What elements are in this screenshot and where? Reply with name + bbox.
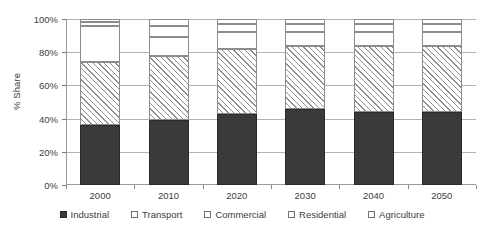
bar-segment-residential[interactable] [285,24,325,32]
legend-swatch-icon [204,211,211,218]
bar-segment-commercial[interactable] [285,32,325,45]
bar-segment-residential[interactable] [80,22,120,25]
bar-segment-transport[interactable] [80,62,120,125]
stacked-bar[interactable] [354,19,394,185]
y-tick-label: 40% [14,113,58,124]
stacked-bar[interactable] [422,19,462,185]
x-tick-mark [271,185,272,189]
bar-segment-commercial[interactable] [354,32,394,45]
x-tick-mark [66,185,67,189]
bar-segment-transport[interactable] [422,46,462,112]
x-tick-label-2050: 2050 [431,190,452,201]
chart-legend: IndustrialTransportCommercialResidential… [0,209,484,220]
legend-swatch-icon [288,211,295,218]
x-tick-label-2010: 2010 [158,190,179,201]
bar-segment-transport[interactable] [217,49,257,114]
legend-item-industrial[interactable]: Industrial [60,209,110,220]
bar-group[interactable] [285,19,325,185]
bar-group[interactable] [422,19,462,185]
bar-group[interactable] [80,19,120,185]
bar-segment-residential[interactable] [422,24,462,32]
y-tick-label: 100% [14,14,58,25]
bar-group[interactable] [354,19,394,185]
legend-item-agriculture[interactable]: Agriculture [368,209,424,220]
x-tick-label-2040: 2040 [363,190,384,201]
x-tick-mark [134,185,135,189]
x-tick-label-2030: 2030 [295,190,316,201]
bar-segment-transport[interactable] [354,46,394,112]
bar-segment-transport[interactable] [149,56,189,121]
x-tick-mark [203,185,204,189]
legend-label: Industrial [71,209,110,220]
legend-swatch-icon [60,211,67,218]
x-tick-mark [339,185,340,189]
y-tick-label: 80% [14,47,58,58]
legend-swatch-icon [131,211,138,218]
bar-segment-agriculture[interactable] [354,19,394,24]
chart-container: % Share 0%20%40%60%80%100% 2000201020202… [0,0,484,232]
legend-swatch-icon [368,211,375,218]
bar-group[interactable] [217,19,257,185]
y-tick-label: 20% [14,146,58,157]
bar-segment-residential[interactable] [149,26,189,38]
y-tick-label: 0% [14,180,58,191]
x-tick-mark [408,185,409,189]
legend-item-residential[interactable]: Residential [288,209,346,220]
bar-segment-commercial[interactable] [422,32,462,45]
bar-segment-industrial[interactable] [422,112,462,185]
bar-segment-agriculture[interactable] [285,19,325,24]
legend-item-commercial[interactable]: Commercial [204,209,266,220]
legend-item-transport[interactable]: Transport [131,209,182,220]
bar-segment-commercial[interactable] [217,32,257,49]
bar-segment-commercial[interactable] [80,26,120,63]
stacked-bar[interactable] [80,19,120,185]
bar-segment-industrial[interactable] [80,125,120,185]
bar-segment-commercial[interactable] [149,37,189,55]
bar-segment-agriculture[interactable] [422,19,462,24]
x-tick-label-2000: 2000 [90,190,111,201]
bar-segment-agriculture[interactable] [149,19,189,26]
bar-segment-industrial[interactable] [149,120,189,185]
bars-layer [66,19,476,185]
legend-label: Agriculture [379,209,424,220]
x-tick-label-2020: 2020 [226,190,247,201]
bar-segment-agriculture[interactable] [217,19,257,24]
bar-segment-industrial[interactable] [217,114,257,185]
bar-segment-residential[interactable] [354,24,394,32]
bar-segment-agriculture[interactable] [80,19,120,22]
bar-segment-residential[interactable] [217,24,257,32]
stacked-bar[interactable] [149,19,189,185]
legend-label: Commercial [215,209,266,220]
legend-label: Residential [299,209,346,220]
stacked-bar[interactable] [285,19,325,185]
y-tick-label: 60% [14,80,58,91]
x-tick-mark [476,185,477,189]
bar-group[interactable] [149,19,189,185]
bar-segment-industrial[interactable] [354,112,394,185]
bar-segment-industrial[interactable] [285,109,325,185]
legend-label: Transport [142,209,182,220]
stacked-bar[interactable] [217,19,257,185]
bar-segment-transport[interactable] [285,46,325,109]
